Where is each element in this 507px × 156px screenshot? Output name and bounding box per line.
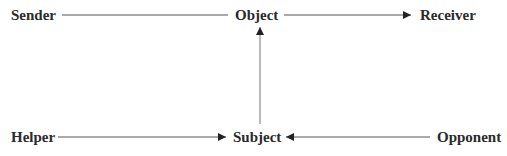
node-helper: Helper [11,128,55,146]
node-object: Object [235,6,278,24]
node-sender: Sender [11,6,56,24]
node-subject: Subject [233,128,281,146]
node-opponent: Opponent [437,128,501,146]
node-receiver: Receiver [420,6,476,24]
